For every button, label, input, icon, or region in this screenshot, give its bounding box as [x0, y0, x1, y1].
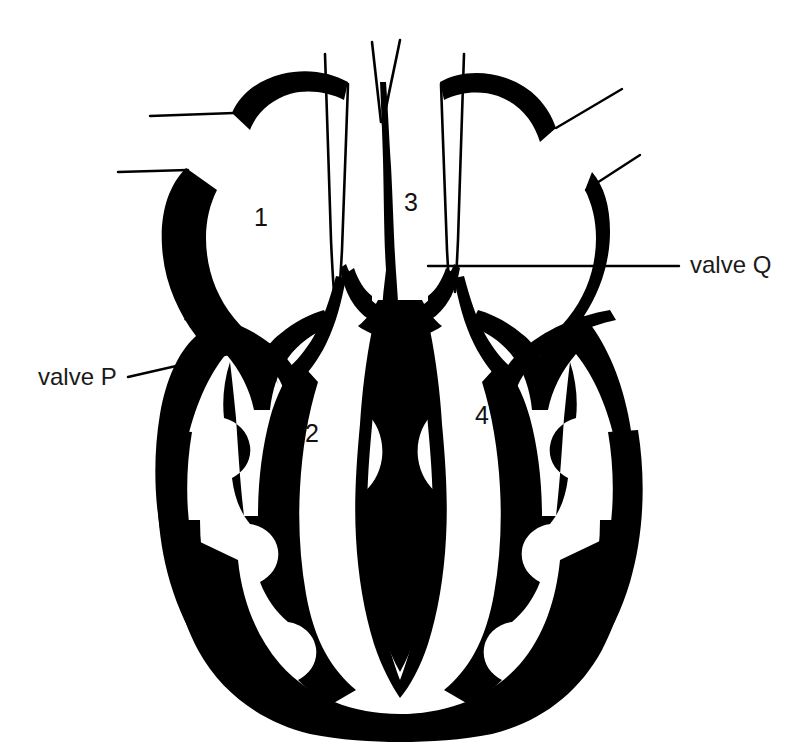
chamber-label-2: 2 — [305, 419, 319, 448]
leader-vessel-top-left — [150, 113, 234, 116]
right-atrium-arc — [440, 73, 556, 142]
chamber-label-4: 4 — [475, 401, 489, 430]
left-atrium-arc — [232, 71, 348, 130]
vessel-right-inner-wall — [441, 84, 450, 296]
leader-vessel-top-right — [556, 89, 622, 128]
valve-p-label: valve P — [38, 363, 117, 391]
chamber-label-1: 1 — [254, 203, 268, 232]
chamber-label-3: 3 — [404, 188, 418, 217]
aorta-fork-left-branch — [372, 42, 381, 122]
heart-cross-section-illustration — [0, 0, 789, 744]
heart-muscle-mass — [155, 71, 642, 742]
vessel-left-inner-wall — [339, 84, 348, 296]
leader-vessel-mid-right — [586, 155, 640, 190]
valve-q-label: valve Q — [690, 251, 771, 279]
heart-diagram-canvas: 1 2 3 4 valve P valve Q — [0, 0, 789, 744]
leader-vessel-mid-left — [118, 170, 188, 172]
